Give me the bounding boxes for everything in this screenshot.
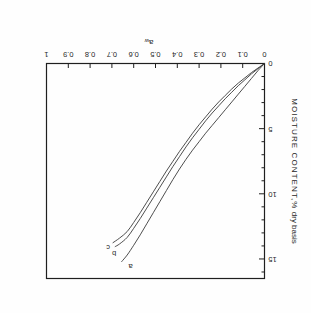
x-tick-label: 0.1 (238, 51, 248, 60)
plot-frame (47, 64, 265, 279)
x-tick-label: 0.2 (216, 51, 226, 60)
y-axis-title-lower: dry basis (291, 210, 300, 244)
isotherm-curve-b (115, 64, 264, 247)
x-tick-label: 0.5 (150, 51, 160, 60)
y-tick-label: 5 (269, 124, 284, 133)
curve-label-b: b (112, 249, 116, 258)
x-axis-title-base: a (149, 39, 153, 48)
x-tick-label: 0.4 (172, 51, 182, 60)
isotherm-curve-a (122, 64, 265, 262)
plot-canvas (0, 0, 311, 313)
plot-frame-rect (47, 64, 265, 279)
curve-label-a: a (129, 262, 133, 271)
rotated-figure-container: 00.10.20.30.40.50.60.70.80.91 051015 abc… (0, 0, 311, 313)
y-axis-ticks (259, 64, 265, 272)
y-axis-title: MOISTURE CONTENT,% dry basis (291, 98, 300, 244)
y-tick-label: 0 (269, 59, 284, 68)
x-tick-label: 0.3 (194, 51, 204, 60)
curve-label-c: c (106, 243, 110, 252)
x-tick-label: 0.8 (85, 51, 95, 60)
isotherm-curves (113, 64, 265, 262)
sorption-isotherm-chart: 00.10.20.30.40.50.60.70.80.91 051015 abc… (0, 0, 311, 313)
figure-page: 00.10.20.30.40.50.60.70.80.91 051015 abc… (0, 0, 311, 313)
x-axis-ticks (47, 64, 265, 69)
y-tick-label: 15 (269, 254, 284, 263)
y-tick-label: 10 (269, 189, 284, 198)
x-axis-title: aw (145, 38, 154, 48)
x-tick-label: 1 (44, 51, 48, 60)
x-tick-label: 0.9 (63, 51, 73, 60)
y-axis-title-caps: MOISTURE CONTENT,% (291, 98, 300, 209)
x-tick-label: 0.7 (107, 51, 117, 60)
x-tick-label: 0 (262, 51, 266, 60)
x-axis-title-subscript: w (145, 38, 149, 44)
x-tick-label: 0.6 (129, 51, 139, 60)
